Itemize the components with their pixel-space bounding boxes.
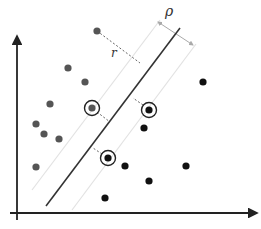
distance-lines	[93, 31, 143, 154]
class-a-point	[32, 120, 39, 127]
distance-line-r	[97, 31, 140, 63]
class-b-point	[140, 124, 147, 131]
support-vector-point	[88, 104, 95, 111]
r-label: r	[111, 46, 118, 60]
rho-label: ρ	[164, 3, 174, 19]
class-a-point	[64, 64, 71, 71]
class-b-point	[182, 162, 189, 169]
class-b-point	[199, 78, 206, 85]
class-a-point	[81, 78, 88, 85]
class-a-point	[46, 100, 53, 107]
class-a-point	[32, 163, 39, 170]
class-a-point	[40, 130, 47, 137]
margin-line-right	[72, 44, 196, 210]
distance-line-sv-a	[97, 112, 110, 122]
support-vector-point	[104, 154, 111, 161]
distance-line-sv-b1	[133, 98, 143, 105]
distance-line-sv-b2	[93, 148, 102, 154]
svm-diagram: ρ r	[0, 0, 261, 229]
support-vector-point	[145, 106, 152, 113]
class-b-point	[121, 162, 128, 169]
class-a-point	[93, 27, 100, 34]
class-a-point	[55, 135, 62, 142]
support-vectors	[85, 101, 157, 166]
class-b-points	[101, 78, 206, 201]
class-b-point	[101, 194, 108, 201]
class-a-points	[32, 27, 100, 170]
class-b-point	[145, 177, 152, 184]
